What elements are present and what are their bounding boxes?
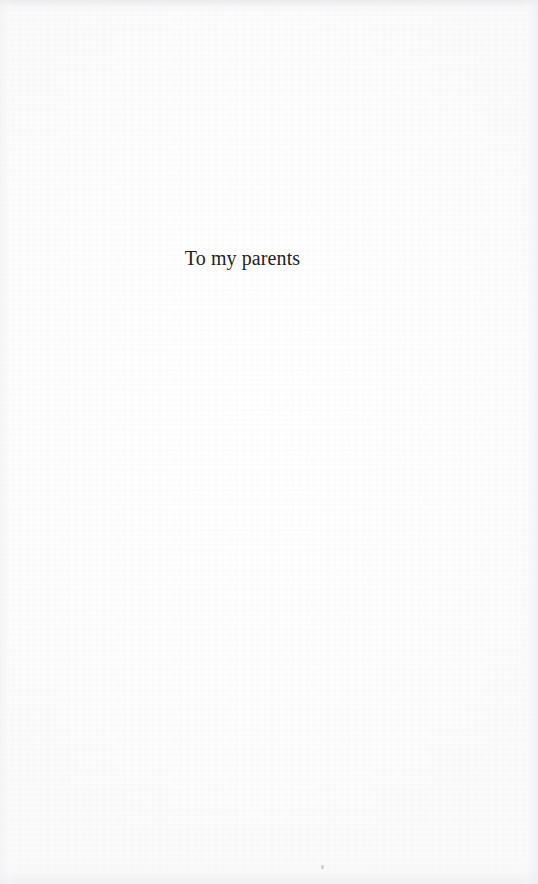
scan-dust-speck [321, 865, 324, 869]
page-right-edge-shading [518, 0, 538, 884]
page-left-edge-shading [0, 0, 16, 884]
page-bottom-edge-shading [0, 858, 538, 884]
paper-background [0, 0, 538, 884]
dedication-text-block: To my parents [0, 246, 485, 270]
scan-noise-texture [0, 0, 538, 884]
dedication-page: To my parents [0, 0, 538, 884]
dedication-text: To my parents [185, 246, 300, 270]
page-top-edge-shading [0, 0, 538, 14]
